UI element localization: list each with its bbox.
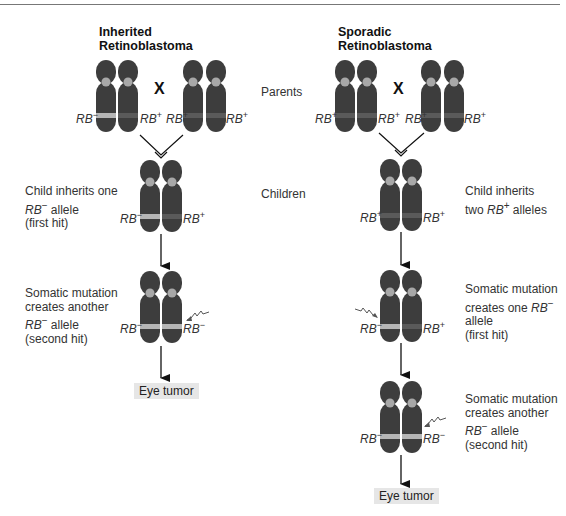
allele-label: RB+ (226, 110, 248, 126)
left-child-chromosome-2 (162, 160, 182, 232)
left-panel-title: Inherited Retinoblastoma (99, 25, 193, 53)
inheritance-lines-left (140, 135, 183, 155)
right-second-hit-chromosome-1 (380, 381, 400, 453)
allele-label: RB− (183, 320, 205, 336)
left-child-chromosome-1 (140, 160, 160, 232)
allele-label: RB+ (405, 110, 427, 126)
allele-label: RB+ (423, 209, 445, 225)
child-note-right: Child inherits two RB+ alleles (465, 185, 547, 217)
allele-label: RB− (360, 320, 382, 336)
allele-label: RB+ (423, 320, 445, 336)
right-child-chromosome-1 (380, 159, 400, 231)
first-hit-note-right: Somatic mutation creates one RB− allele … (465, 283, 558, 342)
allele-label: RB+ (183, 210, 205, 226)
left-second-hit-chromosome-1 (140, 271, 160, 343)
allele-label: RB+ (315, 110, 337, 126)
eye-tumor-outcome-right: Eye tumor (374, 488, 439, 504)
right-first-hit-chromosome-1 (380, 270, 400, 342)
second-hit-note-right: Somatic mutation creates another RB− all… (465, 393, 558, 452)
cross-symbol: X (154, 80, 165, 98)
allele-label: RB− (423, 430, 445, 446)
right-parent-chromosome-4 (444, 60, 464, 132)
allele-label: RB− (120, 210, 142, 226)
allele-label: RB− (76, 110, 98, 126)
title-line-1: Sporadic (338, 25, 432, 39)
allele-label: RB+ (378, 110, 400, 126)
allele-label: RB− (120, 320, 142, 336)
left-parent-chromosome-4 (206, 60, 226, 132)
allele-label: RB+ (360, 209, 382, 225)
child-note-left: Child inherits one RB− allele (first hit… (25, 185, 118, 231)
children-label: Children (261, 188, 306, 202)
allele-label: RB+ (140, 110, 162, 126)
left-second-hit-chromosome-2 (162, 271, 182, 343)
right-child-chromosome-2 (402, 159, 422, 231)
left-parent-chromosome-1 (96, 60, 116, 132)
title-line-1: Inherited (99, 25, 193, 39)
allele-label: RB− (360, 430, 382, 446)
eye-tumor-outcome-left: Eye tumor (134, 383, 199, 399)
mutant-band (96, 113, 116, 118)
allele-label: RB+ (464, 110, 486, 126)
right-first-hit-chromosome-2 (402, 270, 422, 342)
left-parent-chromosome-2 (118, 60, 138, 132)
allele-label: RB+ (166, 110, 188, 126)
right-panel-title: Sporadic Retinoblastoma (338, 25, 432, 53)
inheritance-lines-right (379, 133, 424, 153)
right-parent-chromosome-1 (335, 60, 355, 132)
title-line-2: Retinoblastoma (99, 39, 193, 53)
cross-symbol: X (393, 80, 404, 98)
right-parent-chromosome-2 (357, 60, 377, 132)
second-hit-note-left: Somatic mutation creates another RB− all… (25, 287, 118, 346)
title-line-2: Retinoblastoma (338, 39, 432, 53)
right-second-hit-chromosome-2 (402, 381, 422, 453)
parents-label: Parents (261, 86, 302, 100)
